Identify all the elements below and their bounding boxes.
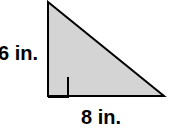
base-dimension-label: 8 in. bbox=[81, 107, 121, 127]
triangle-shape bbox=[48, 2, 164, 96]
height-dimension-label: 6 in. bbox=[0, 43, 38, 63]
right-triangle-figure: 6 in. 8 in. bbox=[0, 0, 172, 133]
